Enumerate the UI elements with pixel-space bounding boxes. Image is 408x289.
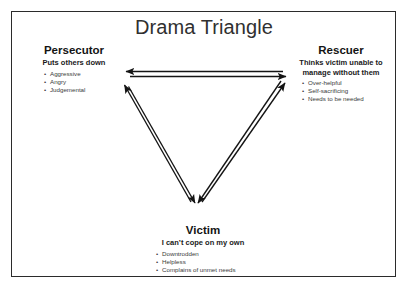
list-item: •Judgemental <box>44 86 122 94</box>
list-item: •Over-helpful <box>302 79 394 87</box>
victim-heading: Victim <box>130 224 276 237</box>
trait-label: Self-sacrificing <box>308 87 348 94</box>
victim-tagline: I can’t cope on my own <box>130 238 276 248</box>
list-item: •Helpless <box>156 258 276 266</box>
trait-label: Aggressive <box>50 70 81 77</box>
trait-label: Downtrodden <box>162 250 199 257</box>
trait-label: Angry <box>50 78 66 85</box>
persecutor-heading: Persecutor <box>26 44 122 57</box>
slide-canvas: Drama Triangle Persecutor Puts others do… <box>0 0 408 289</box>
trait-label: Needs to be needed <box>308 95 364 102</box>
list-item: •Self-sacrificing <box>302 87 394 95</box>
trait-label: Over-helpful <box>308 79 342 86</box>
persecutor-trait-list: •Aggressive •Angry •Judgemental <box>26 70 122 95</box>
role-block-victim: Victim I can’t cope on my own •Downtrodd… <box>130 224 276 274</box>
rescuer-trait-list: •Over-helpful •Self-sacrificing •Needs t… <box>288 79 394 104</box>
trait-label: Helpless <box>162 258 186 265</box>
list-item: •Needs to be needed <box>302 95 394 103</box>
list-item: •Angry <box>44 78 122 86</box>
rescuer-heading: Rescuer <box>288 44 394 57</box>
trait-label: Complains of unmet needs <box>162 266 236 273</box>
rescuer-tagline: Thinks victim unable to manage without t… <box>288 58 394 77</box>
role-block-persecutor: Persecutor Puts others down •Aggressive … <box>26 44 122 94</box>
role-block-rescuer: Rescuer Thinks victim unable to manage w… <box>288 44 394 104</box>
list-item: •Aggressive <box>44 70 122 78</box>
trait-label: Judgemental <box>50 86 85 93</box>
list-item: •Downtrodden <box>156 250 276 258</box>
persecutor-tagline: Puts others down <box>26 58 122 68</box>
page-title: Drama Triangle <box>0 16 408 39</box>
victim-trait-list: •Downtrodden •Helpless •Complains of unm… <box>130 250 276 275</box>
list-item: •Complains of unmet needs <box>156 266 276 274</box>
